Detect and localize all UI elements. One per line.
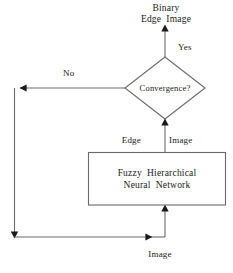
image-word-label: Image	[169, 135, 205, 145]
flowchart-diagram: Binary Edge Image Yes No Convergence? Ed…	[0, 0, 233, 273]
edge-word-label: Edge	[109, 135, 141, 145]
no-branch-label: No	[63, 68, 87, 78]
binary-edge-image-label: Binary Edge Image	[116, 3, 216, 25]
yes-branch-label: Yes	[178, 42, 202, 52]
decision-node-label: Convergence?	[125, 83, 205, 93]
process-node-label: Fuzzy Hierarchical Neural Network	[92, 168, 222, 191]
input-image-label: Image	[135, 249, 185, 259]
